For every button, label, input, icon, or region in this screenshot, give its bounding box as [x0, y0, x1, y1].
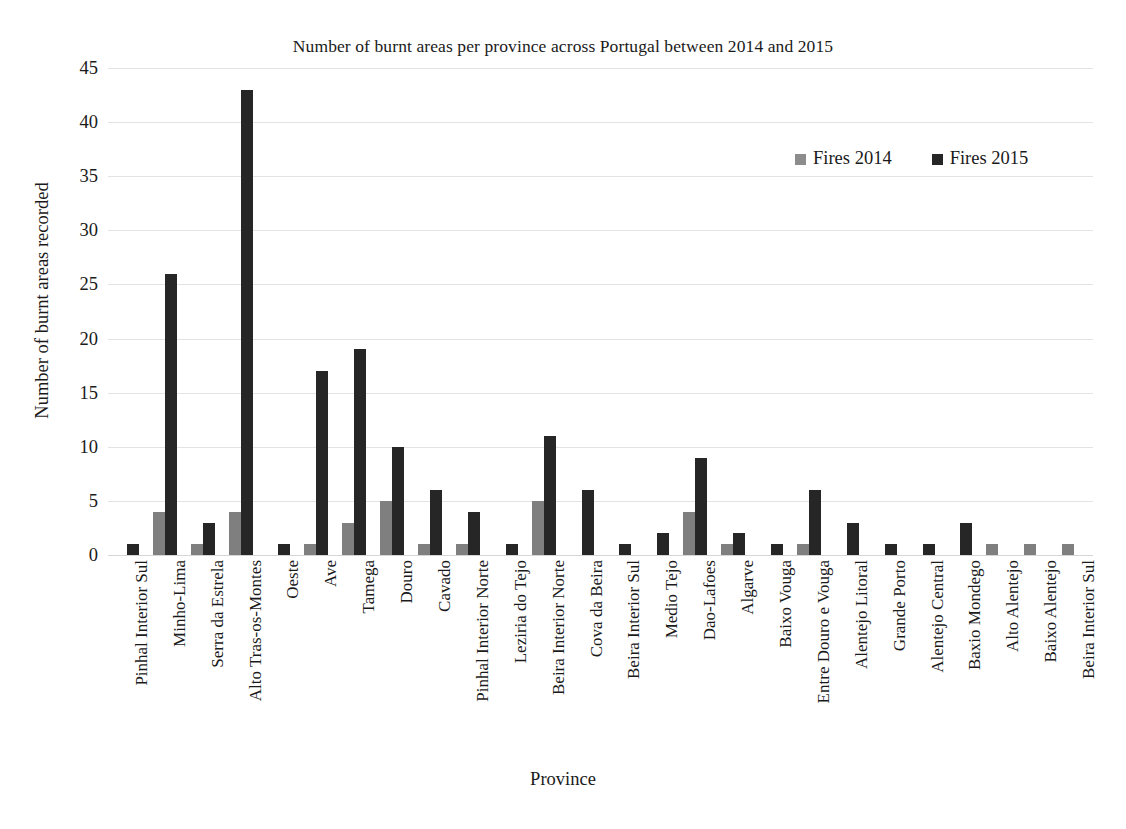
- bar-2014: [380, 501, 392, 555]
- x-tick-label: Alto Alentejo: [1004, 560, 1021, 652]
- x-tick-label: Entre Douro e Vouga: [815, 560, 832, 703]
- bar-2015: [847, 523, 859, 555]
- x-tick-label: Oeste: [284, 560, 301, 599]
- bar-2014: [721, 544, 733, 555]
- x-axis-ticks: Pinhal Interior SulMinho-LimaSerra da Es…: [108, 560, 1093, 765]
- bar-group: [297, 68, 335, 555]
- bar-2015: [203, 523, 215, 555]
- y-tick-label-35: 35: [52, 167, 98, 186]
- bar-2015: [695, 458, 707, 555]
- bar-2014: [342, 523, 354, 555]
- bar-group: [563, 68, 601, 555]
- series-2014-swatch-icon: [795, 154, 806, 165]
- x-tick-label: Ave: [322, 560, 339, 587]
- bar-2015: [544, 436, 556, 555]
- bar-2015: [278, 544, 290, 555]
- y-tick-label-5: 5: [52, 492, 98, 511]
- bar-2015: [809, 490, 821, 555]
- bar-2015: [960, 523, 972, 555]
- x-tick-label: Cavado: [436, 560, 453, 612]
- x-tick-label: Beira Interior Norte: [550, 560, 567, 695]
- bar-2014: [191, 544, 203, 555]
- x-tick-label: Alentejo Litoral: [853, 560, 870, 669]
- y-axis-ticks: 051015202530354045: [38, 0, 98, 829]
- legend-label-fires-2014: Fires 2014: [813, 148, 892, 169]
- bar-2015: [771, 544, 783, 555]
- bar-group: [601, 68, 639, 555]
- bar-group: [411, 68, 449, 555]
- chart-legend: Fires 2014 Fires 2015: [795, 148, 1028, 169]
- bar-group: [676, 68, 714, 555]
- bar-group: [487, 68, 525, 555]
- y-tick-label-15: 15: [52, 383, 98, 402]
- bar-2015: [733, 533, 745, 555]
- bar-2014: [797, 544, 809, 555]
- y-tick-label-25: 25: [52, 275, 98, 294]
- bar-2015: [619, 544, 631, 555]
- x-tick-label: Leziria do Tejo: [512, 560, 529, 663]
- x-tick-label: Beira Interior Sul: [1080, 560, 1097, 679]
- bar-group: [790, 68, 828, 555]
- bar-2015: [165, 274, 177, 555]
- bar-2014: [986, 544, 998, 555]
- x-tick-label: Algarve: [739, 560, 756, 615]
- bar-group: [866, 68, 904, 555]
- bar-2015: [885, 544, 897, 555]
- bar-group: [904, 68, 942, 555]
- bar-group: [525, 68, 563, 555]
- bar-2014: [456, 544, 468, 555]
- bar-2014: [532, 501, 544, 555]
- x-tick-label: Baixo Vouga: [777, 560, 794, 648]
- legend-item-fires-2014: Fires 2014: [795, 148, 892, 169]
- bar-2015: [582, 490, 594, 555]
- bar-group: [146, 68, 184, 555]
- bar-2014: [304, 544, 316, 555]
- bar-2014: [1024, 544, 1036, 555]
- x-tick-label: Cova da Beira: [588, 560, 605, 657]
- x-tick-label: Pinhal Interior Norte: [474, 560, 491, 702]
- bar-2015: [316, 371, 328, 555]
- bar-2014: [683, 512, 695, 555]
- bar-2014: [1062, 544, 1074, 555]
- y-tick-label-40: 40: [52, 113, 98, 132]
- bar-series-container: [108, 68, 1093, 555]
- y-tick-label-20: 20: [52, 329, 98, 348]
- x-tick-label: Dao-Lafoes: [701, 560, 718, 640]
- chart-title: Number of burnt areas per province acros…: [0, 36, 1126, 57]
- bar-2014: [229, 512, 241, 555]
- y-tick-label-45: 45: [52, 59, 98, 78]
- y-tick-label-0: 0: [52, 546, 98, 565]
- y-tick-label-10: 10: [52, 438, 98, 457]
- bar-group: [1017, 68, 1055, 555]
- x-tick-label: Alentejo Central: [929, 560, 946, 673]
- bar-2014: [418, 544, 430, 555]
- bar-group: [979, 68, 1017, 555]
- x-tick-label: Medio Tejo: [663, 560, 680, 638]
- bar-group: [184, 68, 222, 555]
- bar-group: [373, 68, 411, 555]
- x-tick-label: Douro: [398, 560, 415, 603]
- bar-2015: [127, 544, 139, 555]
- bar-group: [828, 68, 866, 555]
- x-tick-label: Beira Interior Sul: [625, 560, 642, 679]
- bar-group: [638, 68, 676, 555]
- x-tick-label: Serra da Estrela: [209, 560, 226, 668]
- bar-group: [941, 68, 979, 555]
- bar-chart: Number of burnt areas per province acros…: [0, 0, 1126, 829]
- bar-2014: [153, 512, 165, 555]
- x-tick-label: Minho-Lima: [171, 560, 188, 647]
- bar-group: [335, 68, 373, 555]
- x-tick-label: Alto Tras-os-Montes: [247, 560, 264, 701]
- x-axis-title: Province: [0, 769, 1126, 790]
- bar-group: [449, 68, 487, 555]
- bar-2015: [354, 349, 366, 555]
- x-tick-label: Tamega: [360, 560, 377, 614]
- bar-group: [1055, 68, 1093, 555]
- x-tick-label: Baixo Alentejo: [1042, 560, 1059, 662]
- bar-group: [714, 68, 752, 555]
- bar-2015: [430, 490, 442, 555]
- bar-2015: [241, 90, 253, 555]
- bar-2015: [468, 512, 480, 555]
- series-2015-swatch-icon: [932, 154, 943, 165]
- y-tick-label-30: 30: [52, 221, 98, 240]
